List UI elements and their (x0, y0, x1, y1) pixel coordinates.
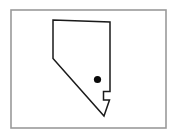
city-location-dot (94, 76, 101, 83)
map-canvas (0, 0, 176, 138)
map-figure (0, 0, 176, 138)
